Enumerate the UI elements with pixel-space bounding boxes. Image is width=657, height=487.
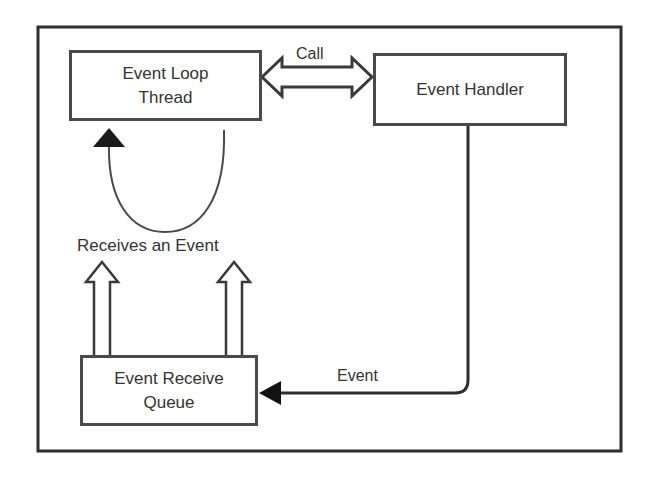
loop-arrowhead-icon <box>93 128 125 147</box>
loop-arrow-curve <box>109 130 224 232</box>
node-event-loop-thread-line1: Event Loop <box>122 62 208 86</box>
event-arrowhead-icon <box>259 381 281 405</box>
node-event-receive-queue-line2: Queue <box>143 391 194 415</box>
receive-up-arrow-right-icon <box>218 262 250 355</box>
receives-event-label: Receives an Event <box>77 236 219 256</box>
node-event-loop-thread: Event Loop Thread <box>69 50 262 121</box>
node-event-receive-queue: Event Receive Queue <box>80 355 258 426</box>
call-label: Call <box>296 45 324 63</box>
node-event-receive-queue-line1: Event Receive <box>114 367 224 391</box>
receive-up-arrow-left-icon <box>86 262 118 355</box>
node-event-loop-thread-line2: Thread <box>139 86 193 110</box>
diagram-canvas: Event Loop Thread Event Handler Event Re… <box>0 0 657 487</box>
call-double-arrow-icon <box>262 58 372 96</box>
event-arrow-line <box>275 125 468 393</box>
node-event-handler: Event Handler <box>373 53 567 126</box>
event-label: Event <box>337 367 378 385</box>
node-event-handler-label: Event Handler <box>416 78 524 102</box>
